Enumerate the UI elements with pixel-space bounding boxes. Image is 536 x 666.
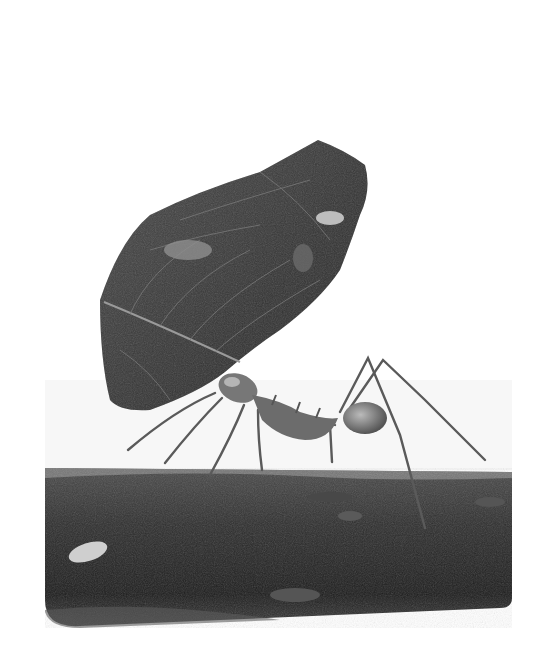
- branch: [45, 468, 512, 628]
- ant-gaster: [343, 402, 387, 434]
- leaf-cutter-ant-photo: [0, 0, 536, 666]
